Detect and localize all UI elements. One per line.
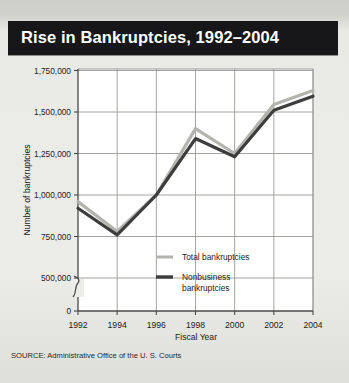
legend-label-total-bankruptcies: Total bankruptcies: [182, 252, 250, 262]
x-axis-tick-label: 1996: [147, 320, 166, 330]
source-note: SOURCE: Administrative Office of the U. …: [11, 351, 181, 360]
chart-title-bar: Rise in Bankruptcies, 1992–2004: [8, 21, 338, 55]
y-axis-tick-label: 0: [66, 306, 71, 316]
y-axis-tick-label: 500,000: [41, 273, 71, 283]
x-axis-tick-label: 2002: [264, 320, 283, 330]
y-axis-tick-label: 1,000,000: [34, 190, 71, 200]
x-axis-tick-label: 2000: [225, 320, 244, 330]
y-axis-break-mask: [72, 279, 84, 297]
chart-page: Rise in Bankruptcies, 1992–2004 0500,000…: [0, 0, 349, 383]
y-axis-tick-labels: 0500,000750,0001,000,0001,250,0001,500,0…: [34, 66, 71, 317]
line-chart: 0500,000750,0001,000,0001,250,0001,500,0…: [8, 57, 338, 353]
y-axis-tick-label: 1,500,000: [34, 107, 71, 117]
x-axis-tick-label: 1994: [108, 320, 127, 330]
chart-container: 0500,000750,0001,000,0001,250,0001,500,0…: [8, 57, 338, 353]
legend-label-nonbusiness-line1: Nonbusiness: [182, 272, 230, 282]
x-axis-tick-label: 1992: [68, 320, 87, 330]
legend-label-nonbusiness-line2: bankruptcies: [182, 283, 230, 293]
y-axis-title: Number of bankruptcies: [22, 144, 32, 235]
y-axis-tick-label: 1,250,000: [34, 149, 71, 159]
x-axis-tick-label: 1998: [186, 320, 205, 330]
x-axis-title: Fiscal Year: [175, 332, 217, 342]
x-axis-tick-labels: 1992199419961998200020022004: [68, 320, 322, 330]
page-title: Rise in Bankruptcies, 1992–2004: [21, 28, 279, 47]
y-axis-tick-label: 750,000: [41, 232, 71, 242]
y-axis-tick-label: 1,750,000: [34, 66, 71, 76]
x-axis-tick-label: 2004: [303, 320, 322, 330]
